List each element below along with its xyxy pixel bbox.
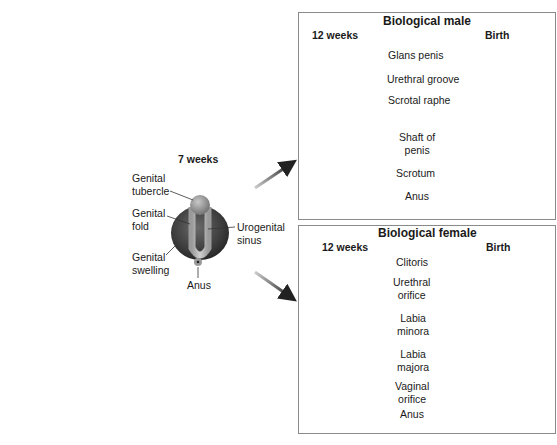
label-line: orifice: [393, 289, 430, 302]
seven-weeks-stage-label: 7 weeks: [178, 153, 218, 165]
arrow-to-male: [255, 163, 292, 188]
urogenital-sinus-label: Urogenital sinus: [237, 221, 285, 246]
seven-weeks-anus-label: Anus: [187, 279, 211, 292]
label-line: sinus: [237, 234, 285, 247]
label-line: Urethral: [393, 276, 430, 289]
scrotum-label: Scrotum: [396, 167, 435, 180]
vaginal-orifice-label: Vaginal orifice: [395, 380, 429, 405]
scrotal-raphe-label: Scrotal raphe: [388, 94, 450, 107]
label-line: Shaft of: [399, 131, 435, 144]
female-anus-label: Anus: [400, 408, 424, 421]
genital-tubercle-label: Genital tubercle: [132, 172, 169, 197]
seven-weeks-illustration: [171, 195, 229, 266]
urethral-groove-label: Urethral groove: [387, 73, 459, 86]
female-12-weeks-label: 12 weeks: [322, 241, 368, 253]
label-line: tubercle: [132, 185, 169, 198]
shaft-of-penis-label: Shaft of penis: [399, 131, 435, 156]
labia-majora-label: Labia majora: [397, 348, 429, 373]
labia-minora-label: Labia minora: [397, 312, 429, 337]
label-line: Genital: [132, 172, 169, 185]
label-line: Vaginal: [395, 380, 429, 393]
glans-penis-label: Glans penis: [388, 49, 443, 62]
label-line: penis: [399, 144, 435, 157]
label-line: swelling: [132, 264, 169, 277]
genital-fold-label: Genital fold: [132, 207, 165, 232]
male-12-weeks-label: 12 weeks: [312, 29, 358, 41]
label-line: minora: [397, 325, 429, 338]
label-line: fold: [132, 220, 165, 233]
female-birth-label: Birth: [486, 241, 511, 253]
label-line: Genital: [132, 207, 165, 220]
male-birth-label: Birth: [485, 29, 510, 41]
label-line: Labia: [397, 312, 429, 325]
clitoris-label: Clitoris: [396, 256, 428, 269]
label-line: Genital: [132, 251, 169, 264]
arrow-to-female: [255, 272, 292, 298]
male-anus-label: Anus: [405, 190, 429, 203]
male-panel-title: Biological male: [383, 14, 471, 28]
label-line: Labia: [397, 348, 429, 361]
female-panel-title: Biological female: [378, 226, 477, 240]
label-line: orifice: [395, 393, 429, 406]
label-line: majora: [397, 361, 429, 374]
male-panel: [298, 12, 556, 220]
genital-swelling-label: Genital swelling: [132, 251, 169, 276]
urethral-orifice-label: Urethral orifice: [393, 276, 430, 301]
label-line: Urogenital: [237, 221, 285, 234]
